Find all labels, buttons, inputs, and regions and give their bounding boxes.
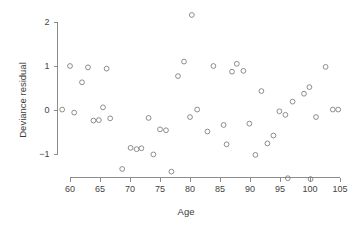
data-point <box>108 116 113 121</box>
y-axis: 210−1 <box>39 17 57 159</box>
x-tick-label: 95 <box>275 184 285 194</box>
data-point <box>253 152 258 157</box>
y-tick-label: 0 <box>44 105 49 115</box>
data-point <box>221 123 226 128</box>
data-point <box>195 107 200 112</box>
x-tick-label: 85 <box>215 184 225 194</box>
x-tick-label: 90 <box>245 184 255 194</box>
data-point <box>164 128 169 133</box>
data-point <box>285 176 290 181</box>
x-tick-label: 75 <box>155 184 165 194</box>
data-point <box>182 59 187 64</box>
data-point <box>302 91 307 96</box>
data-point <box>176 74 181 79</box>
data-point <box>290 99 295 104</box>
data-point <box>277 109 282 114</box>
data-point <box>259 89 264 94</box>
data-point <box>189 13 194 18</box>
data-point <box>91 118 96 123</box>
x-tick-label: 65 <box>95 184 105 194</box>
data-point <box>68 64 73 69</box>
data-point <box>323 64 328 69</box>
data-point <box>151 152 156 157</box>
data-point <box>139 146 144 151</box>
x-tick-label: 105 <box>332 184 347 194</box>
data-point <box>224 142 229 147</box>
data-point <box>336 107 341 112</box>
y-tick-label: −1 <box>39 149 49 159</box>
data-point <box>120 167 125 172</box>
data-point <box>271 133 276 138</box>
data-point <box>101 105 106 110</box>
x-axis: 6065707580859095100105 <box>65 178 348 194</box>
plot-canvas: 210−1 6065707580859095100105 Age Devianc… <box>0 0 352 233</box>
y-tick-label: 1 <box>44 61 49 71</box>
data-point <box>72 110 77 115</box>
data-point <box>205 129 210 134</box>
data-point <box>60 107 65 112</box>
data-point <box>211 64 216 69</box>
data-point <box>96 118 101 123</box>
data-point <box>330 107 335 112</box>
x-axis-title: Age <box>178 206 195 217</box>
data-point <box>158 127 163 132</box>
data-point <box>128 145 133 150</box>
data-point <box>283 112 288 117</box>
data-point <box>104 66 109 71</box>
x-tick-label: 60 <box>65 184 75 194</box>
data-point <box>234 61 239 66</box>
data-point <box>146 116 151 121</box>
x-tick-label: 100 <box>302 184 317 194</box>
x-tick-label: 80 <box>185 184 195 194</box>
y-tick-label: 2 <box>44 17 49 27</box>
data-point <box>241 68 246 73</box>
data-point <box>134 147 139 152</box>
data-point <box>86 65 91 70</box>
data-points-layer <box>60 13 341 182</box>
data-point <box>314 115 319 120</box>
data-point <box>230 69 235 74</box>
data-point <box>188 115 193 120</box>
data-point <box>265 141 270 146</box>
y-axis-title: Deviance residual <box>17 62 28 138</box>
data-point <box>80 80 85 85</box>
x-tick-label: 70 <box>125 184 135 194</box>
data-point <box>247 121 252 126</box>
scatter-plot-figure: 210−1 6065707580859095100105 Age Devianc… <box>0 0 352 233</box>
data-point <box>307 85 312 90</box>
data-point <box>169 169 174 174</box>
